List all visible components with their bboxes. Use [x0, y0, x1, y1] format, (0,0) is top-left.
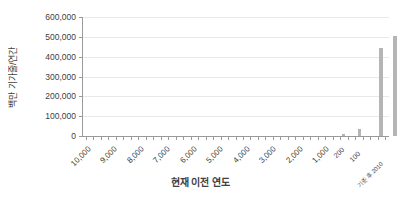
x-tick-mark	[108, 137, 109, 140]
bar	[393, 36, 397, 136]
x-tick-mark	[131, 137, 132, 140]
x-tick-mark	[183, 137, 184, 140]
x-tick-mark	[228, 137, 229, 140]
gridline	[82, 57, 389, 58]
gridline	[82, 17, 389, 18]
x-tick-mark	[161, 137, 162, 140]
y-tick-label: 300,000	[16, 73, 76, 82]
x-tick-mark	[93, 137, 94, 140]
x-tick-mark	[303, 137, 304, 140]
x-tick-mark	[153, 137, 154, 140]
x-tick-mark	[378, 137, 379, 140]
x-tick-mark	[146, 137, 147, 140]
bar	[358, 129, 361, 136]
x-tick-mark	[123, 137, 124, 140]
plot-area	[82, 17, 389, 136]
x-tick-mark	[295, 137, 296, 140]
x-tick-mark	[385, 137, 386, 140]
y-axis-line	[82, 17, 83, 136]
bar	[379, 48, 383, 136]
x-tick-mark	[191, 137, 192, 140]
x-tick-mark	[258, 137, 259, 140]
y-tick-label: 0	[16, 132, 76, 141]
x-tick-mark	[116, 137, 117, 140]
x-tick-mark	[333, 137, 334, 140]
x-tick-mark	[101, 137, 102, 140]
x-tick-mark	[206, 137, 207, 140]
x-tick-mark	[355, 137, 356, 140]
gridline	[82, 37, 389, 38]
x-tick-mark	[243, 137, 244, 140]
x-tick-mark	[86, 137, 87, 140]
y-tick-label: 500,000	[16, 33, 76, 42]
gridline	[82, 77, 389, 78]
x-tick-mark	[138, 137, 139, 140]
x-tick-mark	[310, 137, 311, 140]
y-tick-label: 200,000	[16, 92, 76, 101]
y-tick-label: 100,000	[16, 112, 76, 121]
x-tick-mark	[221, 137, 222, 140]
x-tick-mark	[236, 137, 237, 140]
chart-container: 백만 기가줄/연간 600,000500,000400,000300,00020…	[0, 0, 401, 199]
x-tick-mark	[280, 137, 281, 140]
x-axis-title: 현재 이전 연도	[0, 174, 401, 189]
x-tick-mark	[213, 137, 214, 140]
x-tick-mark	[176, 137, 177, 140]
x-tick-mark	[198, 137, 199, 140]
gridline	[82, 96, 389, 97]
x-tick-mark	[273, 137, 274, 140]
x-tick-mark	[168, 137, 169, 140]
x-tick-mark	[288, 137, 289, 140]
x-tick-mark	[363, 137, 364, 140]
x-tick-mark	[325, 137, 326, 140]
x-tick-mark	[318, 137, 319, 140]
y-tick-label: 400,000	[16, 53, 76, 62]
gridline	[82, 116, 389, 117]
x-tick-mark	[250, 137, 251, 140]
x-tick-mark	[340, 137, 341, 140]
x-tick-mark	[265, 137, 266, 140]
y-tick-label: 600,000	[16, 13, 76, 22]
x-tick-mark	[370, 137, 371, 140]
x-tick-mark	[348, 137, 349, 140]
